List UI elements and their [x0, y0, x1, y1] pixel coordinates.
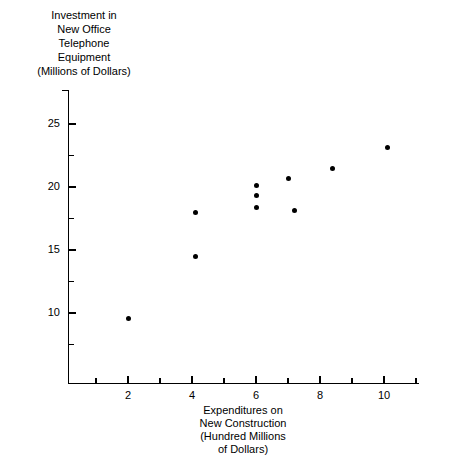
x-minor-tick: [223, 378, 224, 383]
x-axis-caption-line-2: New Construction: [143, 417, 343, 430]
x-tick-label: 2: [108, 390, 148, 401]
data-point: [254, 193, 259, 198]
y-tick-label: 20: [22, 181, 60, 192]
data-point: [292, 208, 297, 213]
y-major-tick: [69, 123, 76, 124]
x-tick-label: 10: [364, 390, 404, 401]
x-major-tick: [319, 376, 320, 383]
x-axis-caption-line-3: (Hundred Millions: [143, 430, 343, 443]
scatter-plot-figure: Investment in New Office Telephone Equip…: [0, 0, 454, 475]
x-major-tick: [255, 376, 256, 383]
x-axis-caption: Expenditures on New Construction (Hundre…: [143, 404, 343, 456]
y-minor-tick: [69, 281, 74, 282]
x-minor-tick: [159, 378, 160, 383]
y-tick-label: 15: [22, 244, 60, 255]
x-tick-label: 6: [236, 390, 276, 401]
y-minor-tick: [69, 344, 74, 345]
data-point: [330, 166, 335, 171]
y-major-tick: [69, 249, 76, 250]
y-tick-label: 10: [22, 307, 60, 318]
x-minor-tick: [287, 378, 288, 383]
x-axis-caption-line-1: Expenditures on: [143, 404, 343, 417]
y-axis-line: [68, 90, 69, 383]
x-major-tick: [191, 376, 192, 383]
y-axis-top-cap-tick: [62, 90, 68, 91]
data-point: [193, 254, 198, 259]
data-point: [286, 176, 291, 181]
y-major-tick: [69, 186, 76, 187]
x-minor-tick: [415, 378, 416, 383]
x-major-tick: [383, 376, 384, 383]
x-tick-label: 8: [300, 390, 340, 401]
y-minor-tick: [69, 218, 74, 219]
x-minor-tick: [351, 378, 352, 383]
y-major-tick: [69, 312, 76, 313]
x-minor-tick: [95, 378, 96, 383]
y-tick-label: 25: [22, 118, 60, 129]
data-point: [126, 316, 131, 321]
data-point: [385, 145, 390, 150]
data-point: [254, 183, 259, 188]
data-point: [193, 210, 198, 215]
data-point: [254, 205, 259, 210]
x-major-tick: [127, 376, 128, 383]
y-minor-tick: [69, 155, 74, 156]
x-tick-label: 4: [172, 390, 212, 401]
x-axis-line: [68, 383, 419, 384]
x-axis-caption-line-4: of Dollars): [143, 443, 343, 456]
